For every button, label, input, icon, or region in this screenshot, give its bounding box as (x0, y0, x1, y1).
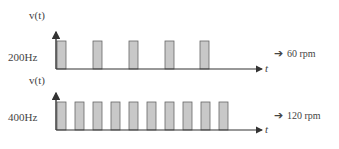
pulse (57, 102, 66, 130)
pulse (200, 41, 209, 69)
pulse (183, 102, 192, 130)
result-label: 120 rpm (287, 110, 321, 121)
row-200hz: v(t) 200Hz t ➔ 60 rpm (8, 9, 316, 74)
pulse (75, 102, 84, 130)
y-axis-label: v(t) (29, 74, 45, 87)
pulse (93, 41, 102, 69)
pulse (57, 41, 66, 69)
pulse (111, 102, 120, 130)
pulse (129, 102, 138, 130)
result-label: 60 rpm (287, 48, 316, 59)
pulse (201, 102, 210, 130)
frequency-label: 400Hz (8, 111, 37, 123)
pulse (147, 102, 156, 130)
pulse (165, 102, 174, 130)
frequency-label: 200Hz (8, 51, 37, 63)
pulse-frequency-diagram: v(t) 200Hz t ➔ 60 rpm v(t) 400Hz (0, 0, 339, 149)
result-arrow-icon: ➔ (274, 47, 283, 59)
x-axis-label: t (265, 62, 269, 74)
result-arrow-icon: ➔ (274, 109, 283, 121)
pulse (93, 102, 102, 130)
pulse (219, 102, 228, 130)
x-axis-label: t (265, 123, 269, 135)
y-axis-label: v(t) (29, 9, 45, 22)
pulse (165, 41, 174, 69)
pulse (129, 41, 138, 69)
row-400hz: v(t) 400Hz t ➔ 120 rpm (8, 74, 321, 135)
pulse-train (57, 102, 228, 130)
pulse-train (57, 41, 209, 69)
